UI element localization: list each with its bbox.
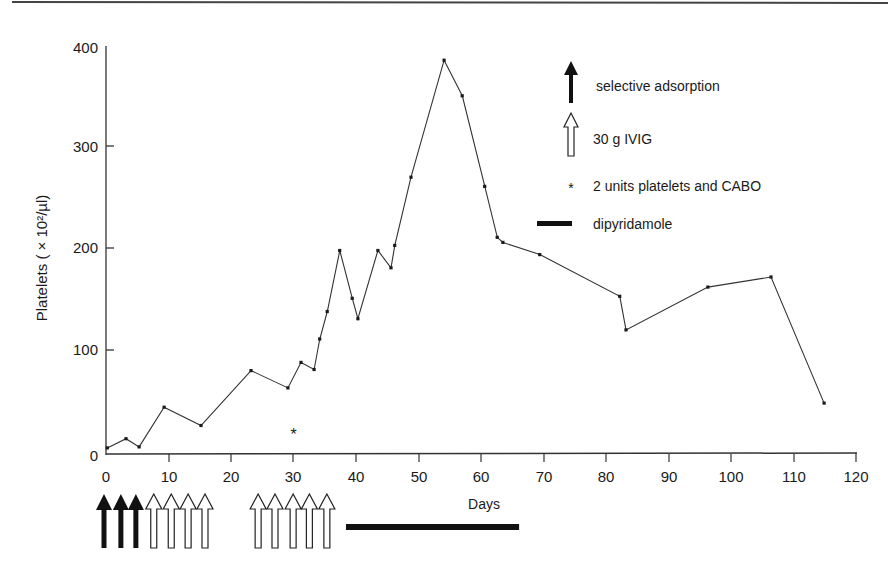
data-point [624,328,627,331]
x-tick-label: 110 [782,468,806,485]
data-point [138,445,141,448]
data-point [163,406,166,409]
filled-arrow-icon [564,61,578,103]
legend-item-selective-adsorption: selective adsorption [564,61,720,103]
data-point [393,244,396,247]
data-point [618,295,621,298]
x-tick-label: 10 [161,468,178,485]
data-point [299,361,302,364]
asterisk-icon: * [568,180,574,196]
data-point [769,275,772,278]
data-point [326,310,329,313]
legend-label: 2 units platelets and CABO [593,178,761,194]
ivig-arrow-icon [250,494,266,548]
legend-item-platelets-cabo: * 2 units platelets and CABO [568,178,761,196]
legend-label: 30 g IVIG [593,131,652,147]
data-point [501,241,504,244]
x-tick-label: 80 [598,468,615,485]
y-axis-title: Platelets ( × 10²/µl) [33,195,50,322]
selective-adsorption-arrow-icon [128,494,144,548]
data-point [286,386,289,389]
y-tick-label: 400 [73,39,98,56]
ivig-arrow-icon [319,494,335,548]
ivig-arrow-icon [180,494,196,548]
top-rule [12,2,888,3]
data-point [376,249,379,252]
x-tick-label: 50 [411,468,428,485]
selective-adsorption-arrow-icon [96,494,112,548]
data-point [496,236,499,239]
x-tick-label: 120 [843,468,868,485]
data-point [409,176,412,179]
data-point [249,369,252,372]
selective-adsorption-arrow-icon [113,494,129,548]
data-point [199,424,202,427]
x-tick-label: 90 [661,468,678,485]
platelet-series [106,59,826,450]
data-point [318,337,321,340]
data-point [356,317,359,320]
legend-label: dipyridamole [593,216,673,232]
ivig-arrow-icon [146,494,162,548]
data-point [461,94,464,97]
data-point [823,402,826,405]
dipyridamole-bar [346,524,519,530]
x-axis-title: Days [468,496,500,512]
ivig-arrow-icon [267,494,283,548]
data-point [483,185,486,188]
legend: selective adsorption 30 g IVIG * 2 units… [537,61,761,232]
data-point [338,249,341,252]
thick-bar-icon [537,221,572,226]
x-tick-label: 0 [102,468,110,485]
legend-label: selective adsorption [596,78,720,94]
ivig-arrow-icon [301,494,317,548]
y-tick-label: 200 [73,239,98,256]
x-tick-label: 40 [348,468,365,485]
y-axis: 400 300 200 100 0 Platelets ( × 10²/µl) [33,39,114,464]
y-tick-label: 0 [90,447,98,464]
data-point [351,297,354,300]
data-point [124,437,127,440]
ivig-arrow-icon [197,494,213,548]
x-tick-label: 20 [223,468,240,485]
data-point [106,446,109,449]
legend-item-ivig: 30 g IVIG [564,113,652,156]
data-point [443,59,446,62]
data-point [313,368,316,371]
y-tick-label: 100 [73,341,98,358]
ivig-arrow-icon [285,494,301,548]
data-point [389,266,392,269]
platelet-chart: 400 300 200 100 0 Platelets ( × 10²/µl) … [0,0,896,575]
data-point [538,253,541,256]
treatment-arrows [96,494,335,548]
x-axis: 0 10 20 30 40 50 60 70 80 90 100 110 120… [102,453,869,512]
series-line [107,60,824,448]
open-arrow-icon [564,113,578,156]
x-tick-label: 30 [285,468,302,485]
x-tick-label: 60 [473,468,490,485]
legend-item-dipyridamole: dipyridamole [537,216,673,232]
platelet-transfusion-asterisk: * [290,426,296,443]
ivig-arrow-icon [163,494,179,548]
x-tick-label: 70 [536,468,553,485]
data-point [706,286,709,289]
y-tick-label: 300 [73,138,98,155]
x-tick-label: 100 [718,468,743,485]
